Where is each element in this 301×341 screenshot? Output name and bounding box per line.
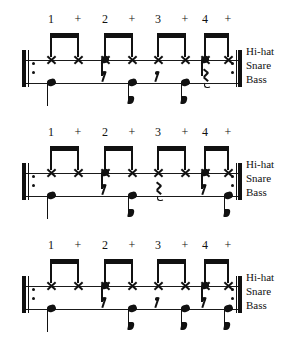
quarter-rest xyxy=(201,70,210,88)
count-row: 1+2+3+4+ xyxy=(0,238,301,254)
instrument-label-hi-hat: Hi-hat xyxy=(246,270,301,284)
eighth-beam xyxy=(104,33,133,38)
bass-eighth-note xyxy=(128,192,140,218)
hihat-x-notehead xyxy=(127,280,138,291)
hihat-x-notehead xyxy=(46,167,57,178)
repeat-dot xyxy=(32,71,35,74)
hihat-x-notehead xyxy=(180,280,191,291)
thin-barline xyxy=(28,163,29,200)
thin-barline xyxy=(28,276,29,313)
bass-quarter-note xyxy=(47,79,57,107)
eighth-beam xyxy=(104,259,133,264)
thick-barline xyxy=(238,50,242,87)
repeat-dot xyxy=(231,297,234,300)
hihat-x-notehead xyxy=(223,167,234,178)
hihat-x-notehead xyxy=(46,280,57,291)
bass-stem xyxy=(47,197,49,219)
thin-barline xyxy=(236,276,237,313)
bass-eighth-note xyxy=(224,305,236,331)
hihat-x-notehead xyxy=(153,167,164,178)
rest-segment xyxy=(157,195,164,202)
bass-quarter-note xyxy=(47,305,57,333)
bass-quarter-note xyxy=(47,192,57,220)
eighth-beam xyxy=(157,146,186,151)
bass-flag xyxy=(223,322,231,330)
instrument-label-snare: Snare xyxy=(246,58,301,72)
instrument-label-bass: Bass xyxy=(246,72,301,86)
eighth-beam xyxy=(50,146,79,151)
bass-eighth-note xyxy=(224,192,236,218)
quarter-rest xyxy=(154,183,163,201)
instrument-labels: Hi-hatSnareBass xyxy=(246,270,301,312)
bass-flag xyxy=(223,209,231,217)
hihat-x-notehead xyxy=(73,167,84,178)
eighth-beam xyxy=(157,33,186,38)
instrument-labels: Hi-hatSnareBass xyxy=(246,157,301,199)
repeat-dot xyxy=(32,297,35,300)
thin-barline xyxy=(236,163,237,200)
count-label: 3 xyxy=(151,12,165,26)
repeat-dot xyxy=(231,184,234,187)
thin-barline xyxy=(28,50,29,87)
count-label: + xyxy=(178,12,192,26)
thick-barline xyxy=(238,163,242,200)
hihat-x-notehead xyxy=(153,280,164,291)
thick-barline xyxy=(238,276,242,313)
thick-barline xyxy=(22,276,26,313)
bass-flag xyxy=(180,322,188,330)
bass-flag xyxy=(127,209,135,217)
instrument-label-bass: Bass xyxy=(246,185,301,199)
repeat-dot xyxy=(32,62,35,65)
eighth-rest xyxy=(154,296,162,310)
eighth-rest xyxy=(101,70,109,84)
count-label: 4 xyxy=(198,125,212,139)
eighth-rest xyxy=(201,183,209,197)
hihat-x-notehead xyxy=(180,167,191,178)
count-label: 2 xyxy=(98,12,112,26)
count-label: 1 xyxy=(44,125,58,139)
hihat-x-notehead xyxy=(127,167,138,178)
staff-system-3: 1+2+3+4+Hi-hatSnareBass xyxy=(0,226,301,339)
eighth-rest xyxy=(101,183,109,197)
hihat-x-notehead xyxy=(73,280,84,291)
count-row: 1+2+3+4+ xyxy=(0,12,301,28)
bass-flag xyxy=(180,96,188,104)
count-label: + xyxy=(125,12,139,26)
eighth-beam xyxy=(204,259,229,264)
repeat-dot xyxy=(231,71,234,74)
hihat-x-notehead xyxy=(73,54,84,65)
rest-segment xyxy=(204,82,211,89)
eighth-rest xyxy=(154,70,162,84)
repeat-dot xyxy=(32,288,35,291)
rest-segment xyxy=(203,76,208,81)
hihat-x-notehead xyxy=(127,54,138,65)
hihat-x-notehead xyxy=(153,54,164,65)
count-label: + xyxy=(178,238,192,252)
thick-barline xyxy=(22,163,26,200)
thick-barline xyxy=(22,50,26,87)
count-label: 4 xyxy=(198,12,212,26)
count-label: + xyxy=(221,12,235,26)
count-label: + xyxy=(178,125,192,139)
instrument-label-snare: Snare xyxy=(246,171,301,185)
rest-segment xyxy=(156,189,161,194)
hihat-x-notehead xyxy=(46,54,57,65)
count-label: + xyxy=(125,238,139,252)
thin-barline xyxy=(236,50,237,87)
eighth-beam xyxy=(104,146,133,151)
staff-system-2: 1+2+3+4+Hi-hatSnareBass xyxy=(0,113,301,226)
bass-eighth-note xyxy=(128,305,140,331)
drum-notation-sheet: 1+2+3+4+Hi-hatSnareBass1+2+3+4+Hi-hatSna… xyxy=(0,0,301,341)
eighth-beam xyxy=(204,146,229,151)
instrument-label-snare: Snare xyxy=(246,284,301,298)
bass-flag xyxy=(127,96,135,104)
count-row: 1+2+3+4+ xyxy=(0,125,301,141)
instrument-labels: Hi-hatSnareBass xyxy=(246,44,301,86)
count-label: 1 xyxy=(44,238,58,252)
instrument-label-bass: Bass xyxy=(246,298,301,312)
count-label: + xyxy=(221,125,235,139)
eighth-beam xyxy=(50,259,79,264)
eighth-beam xyxy=(204,33,229,38)
staff-system-1: 1+2+3+4+Hi-hatSnareBass xyxy=(0,0,301,113)
count-label: + xyxy=(221,238,235,252)
